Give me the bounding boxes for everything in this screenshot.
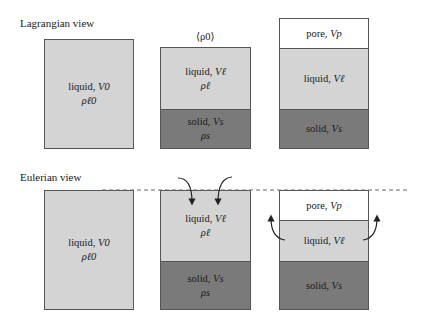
region-name: liquid, [304,235,331,246]
volume-symbol: Vℓ [333,73,344,84]
region-name: liquid, [68,81,95,92]
liquid-region: liquid, V0 ρℓ0 [45,40,133,148]
volume-symbol: Vs [332,123,343,134]
lagrangian-box-liquid-only: liquid, V0 ρℓ0 [44,39,134,149]
region-name: solid, [306,280,329,291]
solid-region: solid, Vs [280,261,368,309]
volume-symbol: Vs [213,116,224,127]
volume-symbol: Vp [330,28,342,39]
lagrangian-box-liquid-solid: liquid, Vℓ ρℓ solid, Vs ρs [160,47,251,149]
eulerian-box-pore-liquid-solid: pore, Vp liquid, Vℓ solid, Vs [279,190,369,310]
region-name: pore, [306,200,327,211]
region-name: solid, [187,116,210,127]
region-name: solid, [187,273,210,284]
liquid-region: liquid, Vℓ ρℓ [161,48,250,109]
volume-symbol: V0 [98,81,110,92]
region-name: solid, [306,123,329,134]
density-symbol: ρℓ [201,79,210,93]
eulerian-box-liquid-solid: liquid, Vℓ ρℓ solid, Vs ρs [160,190,251,310]
average-density-label: ⟨ρ0⟩ [196,30,215,42]
volume-symbol: Vℓ [215,66,226,77]
lagrangian-box-pore-liquid-solid: pore, Vp liquid, Vℓ solid, Vs [279,18,369,149]
region-name: liquid, [68,237,95,248]
lagrangian-view-label: Lagrangian view [20,17,94,29]
liquid-region: liquid, Vℓ ρℓ [161,191,250,261]
liquid-region: liquid, Vℓ [280,220,368,261]
volume-symbol: Vℓ [333,235,344,246]
pore-region: pore, Vp [280,191,368,220]
solid-region: solid, Vs ρs [161,261,250,309]
region-name: liquid, [185,66,212,77]
density-symbol: ρℓ [201,226,210,240]
liquid-region: liquid, V0 ρℓ0 [45,191,133,309]
volume-symbol: Vs [332,280,343,291]
region-name: liquid, [185,213,212,224]
solid-region: solid, Vs ρs [161,109,250,148]
volume-symbol: Vℓ [215,213,226,224]
solid-region: solid, Vs [280,109,368,148]
density-symbol: ρℓ0 [82,94,97,108]
region-name: pore, [306,28,327,39]
eulerian-view-label: Eulerian view [20,171,81,183]
volume-symbol: Vp [330,200,342,211]
volume-symbol: V0 [98,237,110,248]
eulerian-box-liquid-only: liquid, V0 ρℓ0 [44,190,134,310]
density-symbol: ρs [201,129,210,143]
pore-region: pore, Vp [280,19,368,48]
region-name: liquid, [304,73,331,84]
density-symbol: ρs [201,286,210,300]
liquid-region: liquid, Vℓ [280,48,368,109]
density-symbol: ρℓ0 [82,250,97,264]
volume-symbol: Vs [213,273,224,284]
